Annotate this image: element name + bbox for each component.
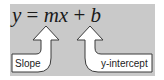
slope-label: Slope (15, 58, 41, 70)
y-intercept-label: y-intercept (101, 58, 148, 70)
